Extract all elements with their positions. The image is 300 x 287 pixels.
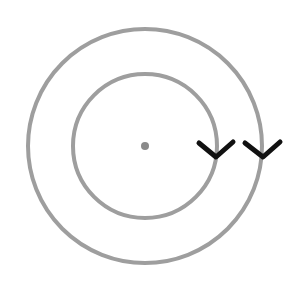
concentric-circles-diagram	[0, 0, 300, 287]
center-dot	[141, 142, 149, 150]
